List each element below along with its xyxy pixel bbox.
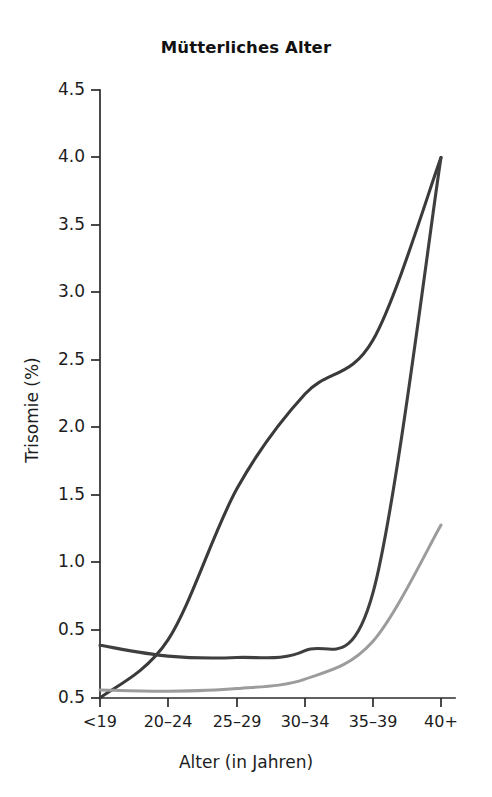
y-tick-label: 3.5 [29,214,85,234]
plot-area [0,0,492,797]
data-series-group [100,158,441,698]
y-tick-label: 1.0 [29,551,85,571]
y-tick-label: 4.5 [29,79,85,99]
chart-container: Mütterliches Alter 4.54.03.53.02.52.01.5… [0,0,492,797]
y-axis-title: Trisomie (%) [22,310,42,510]
y-tick-label: 4.0 [29,146,85,166]
x-tick-label: 40+ [396,712,486,731]
series-line-u-foermige-kurve [100,158,441,658]
series-line-flach-ansteigende-kurve [100,525,441,691]
y-tick-label: 0.5 [29,687,85,707]
axes-group [100,90,455,698]
y-tick-label: 0.5 [29,619,85,639]
y-tick-marks [91,90,100,698]
y-tick-label: 3.0 [29,281,85,301]
x-tick-marks [100,698,441,707]
x-axis-title: Alter (in Jahren) [0,752,492,772]
